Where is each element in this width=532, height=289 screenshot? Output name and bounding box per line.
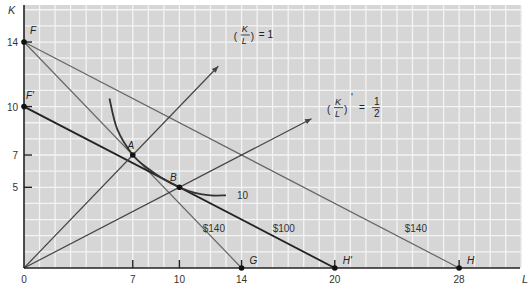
- equals-sign: =: [359, 102, 365, 113]
- ratio-numerator: K: [335, 97, 342, 107]
- ratio-denominator: L: [242, 36, 247, 46]
- series-label: $140: [203, 223, 226, 234]
- point-marker: [21, 104, 27, 110]
- rhs-denominator: 2: [374, 108, 380, 119]
- y-axis-title: K: [8, 4, 16, 16]
- point-marker: [456, 265, 462, 271]
- x-tick-label: 0: [21, 274, 27, 285]
- x-tick-label: 28: [454, 274, 466, 285]
- point-label: F': [26, 90, 35, 101]
- y-tick-label: 7: [12, 150, 18, 161]
- series-label: 10: [237, 190, 249, 201]
- series-label: $100: [273, 223, 296, 234]
- ratio-numerator: K: [242, 24, 249, 34]
- y-tick-label: 10: [7, 102, 19, 113]
- ratio-rhs: = 1: [259, 29, 274, 40]
- x-tick-label: 20: [329, 274, 341, 285]
- series-label: $140: [405, 223, 428, 234]
- prime-mark: ': [351, 92, 353, 103]
- ratio-denominator: L: [335, 109, 340, 119]
- point-marker: [130, 152, 136, 158]
- y-tick-label: 5: [12, 182, 18, 193]
- paren-right: ): [251, 31, 254, 42]
- point-label: H: [467, 255, 475, 266]
- point-marker: [21, 39, 27, 45]
- point-marker: [332, 265, 338, 271]
- point-label: A: [126, 140, 134, 151]
- point-label: G: [250, 255, 258, 266]
- x-tick-label: 14: [236, 274, 248, 285]
- y-tick-label: 14: [7, 37, 19, 48]
- paren-right: ): [344, 104, 347, 115]
- point-label: B: [170, 172, 177, 183]
- point-marker: [239, 265, 245, 271]
- point-label: F: [30, 25, 37, 36]
- x-tick-label: 10: [174, 274, 186, 285]
- isocost-isoquant-chart: 0710142028571014 FF'ABGH'H $140$140$1001…: [0, 0, 532, 289]
- rhs-numerator: 1: [374, 96, 380, 107]
- x-tick-label: 7: [130, 274, 136, 285]
- point-label: H': [343, 255, 353, 266]
- point-marker: [177, 185, 183, 191]
- x-axis-title: L: [522, 273, 528, 285]
